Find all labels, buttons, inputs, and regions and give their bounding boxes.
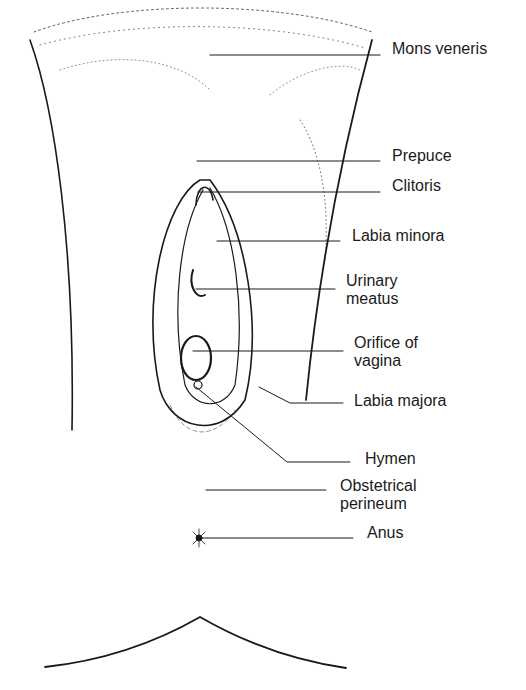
leader-hymen (196, 387, 350, 462)
urinary-meatus-mark (191, 270, 205, 296)
label-orifice-of-vagina: Orifice of vagina (354, 334, 418, 370)
buttock-curve (45, 617, 346, 668)
label-prepuce: Prepuce (392, 147, 452, 165)
hymen-mark (194, 381, 202, 389)
leader-labia-majora (259, 387, 343, 403)
label-obstetrical-perineum: Obstetrical perineum (340, 477, 416, 513)
anatomy-diagram: Mons veneris Prepuce Clitoris Labia mino… (0, 0, 526, 690)
label-labia-majora: Labia majora (354, 392, 447, 410)
label-hymen: Hymen (365, 450, 416, 468)
label-labia-minora: Labia minora (352, 227, 445, 245)
label-urinary-meatus: Urinary meatus (346, 272, 398, 308)
left-thigh-contour (30, 40, 72, 430)
label-anus: Anus (367, 524, 403, 542)
vaginal-orifice (181, 336, 211, 380)
label-mons-veneris: Mons veneris (392, 40, 487, 58)
hair-region (34, 8, 372, 32)
diagram-drawing (0, 0, 526, 690)
labia-majora-outline (153, 180, 252, 425)
label-clitoris: Clitoris (392, 177, 441, 195)
